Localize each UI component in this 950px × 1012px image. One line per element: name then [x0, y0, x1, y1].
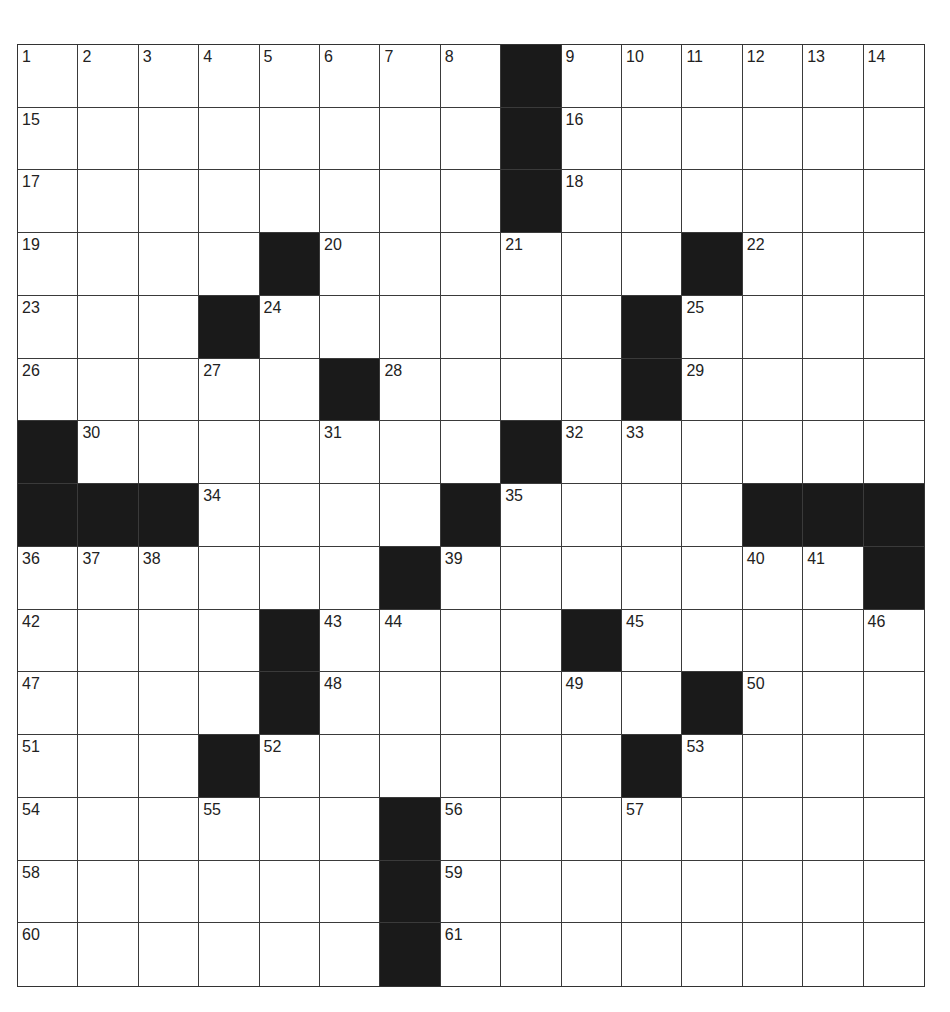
- grid-cell[interactable]: [441, 359, 501, 422]
- grid-cell[interactable]: [803, 108, 863, 171]
- grid-cell[interactable]: [139, 233, 199, 296]
- grid-cell[interactable]: 39: [441, 547, 501, 610]
- grid-cell[interactable]: 59: [441, 861, 501, 924]
- grid-cell[interactable]: [864, 108, 924, 171]
- grid-cell[interactable]: 11: [682, 45, 742, 108]
- grid-cell[interactable]: 27: [199, 359, 259, 422]
- grid-cell[interactable]: 42: [18, 610, 78, 673]
- grid-cell[interactable]: [864, 359, 924, 422]
- grid-cell[interactable]: [803, 861, 863, 924]
- grid-cell[interactable]: [320, 484, 380, 547]
- grid-cell[interactable]: [803, 170, 863, 233]
- grid-cell[interactable]: 18: [562, 170, 622, 233]
- grid-cell[interactable]: 14: [864, 45, 924, 108]
- grid-cell[interactable]: [803, 421, 863, 484]
- grid-cell[interactable]: 60: [18, 923, 78, 986]
- grid-cell[interactable]: [682, 421, 742, 484]
- grid-cell[interactable]: [743, 108, 803, 171]
- grid-cell[interactable]: 17: [18, 170, 78, 233]
- grid-cell[interactable]: [864, 923, 924, 986]
- grid-cell[interactable]: 31: [320, 421, 380, 484]
- grid-cell[interactable]: [260, 170, 320, 233]
- grid-cell[interactable]: 35: [501, 484, 561, 547]
- grid-cell[interactable]: 32: [562, 421, 622, 484]
- grid-cell[interactable]: [78, 923, 138, 986]
- grid-cell[interactable]: [199, 923, 259, 986]
- grid-cell[interactable]: [562, 547, 622, 610]
- grid-cell[interactable]: 54: [18, 798, 78, 861]
- grid-cell[interactable]: 19: [18, 233, 78, 296]
- grid-cell[interactable]: [743, 735, 803, 798]
- grid-cell[interactable]: [380, 484, 440, 547]
- grid-cell[interactable]: 22: [743, 233, 803, 296]
- grid-cell[interactable]: [78, 233, 138, 296]
- grid-cell[interactable]: [622, 233, 682, 296]
- grid-cell[interactable]: [260, 547, 320, 610]
- grid-cell[interactable]: [743, 170, 803, 233]
- grid-cell[interactable]: 4: [199, 45, 259, 108]
- grid-cell[interactable]: [320, 547, 380, 610]
- grid-cell[interactable]: [380, 233, 440, 296]
- grid-cell[interactable]: 2: [78, 45, 138, 108]
- grid-cell[interactable]: [562, 359, 622, 422]
- grid-cell[interactable]: [139, 108, 199, 171]
- grid-cell[interactable]: [864, 798, 924, 861]
- grid-cell[interactable]: [260, 861, 320, 924]
- grid-cell[interactable]: [743, 421, 803, 484]
- grid-cell[interactable]: [260, 108, 320, 171]
- grid-cell[interactable]: [199, 610, 259, 673]
- grid-cell[interactable]: [78, 861, 138, 924]
- grid-cell[interactable]: [260, 923, 320, 986]
- grid-cell[interactable]: [682, 547, 742, 610]
- grid-cell[interactable]: [501, 359, 561, 422]
- grid-cell[interactable]: [803, 610, 863, 673]
- grid-cell[interactable]: [380, 108, 440, 171]
- grid-cell[interactable]: [199, 108, 259, 171]
- grid-cell[interactable]: 40: [743, 547, 803, 610]
- grid-cell[interactable]: [682, 923, 742, 986]
- grid-cell[interactable]: [562, 861, 622, 924]
- grid-cell[interactable]: 30: [78, 421, 138, 484]
- grid-cell[interactable]: [260, 421, 320, 484]
- grid-cell[interactable]: [441, 672, 501, 735]
- grid-cell[interactable]: [622, 484, 682, 547]
- grid-cell[interactable]: [199, 421, 259, 484]
- grid-cell[interactable]: [622, 923, 682, 986]
- grid-cell[interactable]: 43: [320, 610, 380, 673]
- grid-cell[interactable]: 53: [682, 735, 742, 798]
- grid-cell[interactable]: [682, 610, 742, 673]
- grid-cell[interactable]: [501, 923, 561, 986]
- grid-cell[interactable]: [139, 421, 199, 484]
- grid-cell[interactable]: 16: [562, 108, 622, 171]
- grid-cell[interactable]: [380, 672, 440, 735]
- grid-cell[interactable]: [139, 296, 199, 359]
- grid-cell[interactable]: 26: [18, 359, 78, 422]
- grid-cell[interactable]: 25: [682, 296, 742, 359]
- grid-cell[interactable]: [199, 170, 259, 233]
- grid-cell[interactable]: 13: [803, 45, 863, 108]
- grid-cell[interactable]: [622, 672, 682, 735]
- grid-cell[interactable]: [562, 735, 622, 798]
- grid-cell[interactable]: [803, 672, 863, 735]
- grid-cell[interactable]: [441, 170, 501, 233]
- grid-cell[interactable]: [864, 170, 924, 233]
- grid-cell[interactable]: [682, 108, 742, 171]
- grid-cell[interactable]: 15: [18, 108, 78, 171]
- grid-cell[interactable]: 5: [260, 45, 320, 108]
- grid-cell[interactable]: 41: [803, 547, 863, 610]
- grid-cell[interactable]: [562, 233, 622, 296]
- grid-cell[interactable]: 12: [743, 45, 803, 108]
- grid-cell[interactable]: [139, 735, 199, 798]
- grid-cell[interactable]: [320, 170, 380, 233]
- grid-cell[interactable]: [501, 296, 561, 359]
- grid-cell[interactable]: [78, 359, 138, 422]
- grid-cell[interactable]: [260, 359, 320, 422]
- grid-cell[interactable]: 48: [320, 672, 380, 735]
- grid-cell[interactable]: [139, 923, 199, 986]
- grid-cell[interactable]: [864, 233, 924, 296]
- grid-cell[interactable]: 36: [18, 547, 78, 610]
- grid-cell[interactable]: [78, 108, 138, 171]
- grid-cell[interactable]: 1: [18, 45, 78, 108]
- grid-cell[interactable]: [260, 484, 320, 547]
- grid-cell[interactable]: 33: [622, 421, 682, 484]
